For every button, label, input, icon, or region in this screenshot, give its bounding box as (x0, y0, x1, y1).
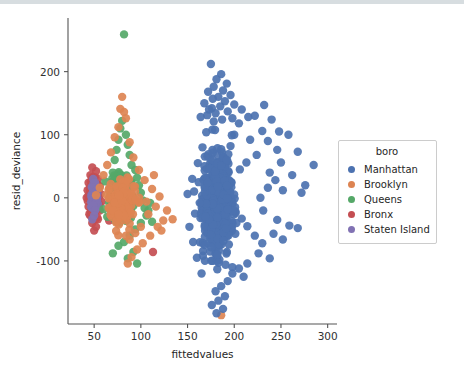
legend-item-queens[interactable]: Queens (346, 192, 428, 207)
svg-text:0: 0 (53, 192, 60, 204)
legend-item-label: Queens (364, 192, 402, 207)
legend-item-label: Brooklyn (364, 177, 408, 192)
svg-text:50: 50 (87, 330, 100, 342)
legend-item-brooklyn[interactable]: Brooklyn (346, 177, 428, 192)
legend-item-label: Bronx (364, 207, 393, 222)
legend-item-manhattan[interactable]: Manhattan (346, 162, 428, 177)
x-axis-label: fittedvalues (171, 348, 233, 360)
legend-entries: ManhattanBrooklynQueensBronxStaten Islan… (346, 162, 428, 237)
svg-text:250: 250 (271, 330, 291, 342)
legend-marker-icon (348, 226, 355, 233)
svg-text:-100: -100 (36, 255, 60, 267)
legend-item-label: Staten Island (364, 222, 430, 237)
legend-marker-icon (348, 211, 355, 218)
legend-item-staten-island[interactable]: Staten Island (346, 222, 428, 237)
legend: boro ManhattanBrooklynQueensBronxStaten … (338, 140, 437, 244)
svg-text:200: 200 (224, 330, 244, 342)
legend-marker-icon (348, 181, 355, 188)
svg-text:200: 200 (40, 66, 60, 78)
svg-text:300: 300 (318, 330, 338, 342)
legend-title: boro (346, 146, 428, 158)
matplotlib-figure: 50100150200250300 2001000-100 fittedvalu… (0, 4, 464, 373)
legend-marker-icon (348, 166, 355, 173)
svg-text:150: 150 (178, 330, 198, 342)
legend-marker-icon (348, 196, 355, 203)
legend-item-bronx[interactable]: Bronx (346, 207, 428, 222)
legend-item-label: Manhattan (364, 162, 418, 177)
svg-text:100: 100 (40, 129, 60, 141)
y-axis-label: resid_deviance (10, 132, 23, 210)
svg-text:100: 100 (131, 330, 151, 342)
